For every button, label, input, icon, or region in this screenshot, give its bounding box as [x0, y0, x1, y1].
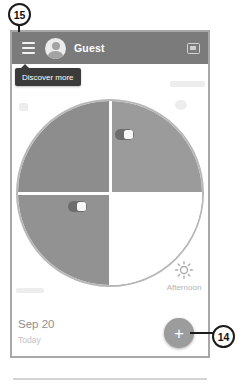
- quadrant-morning[interactable]: [18, 101, 109, 192]
- callout-15-number: 15: [14, 9, 26, 21]
- toggle-bottom-left[interactable]: [68, 201, 87, 212]
- toggle-knob: [77, 202, 86, 211]
- avatar-shoulders: [48, 51, 63, 59]
- tooltip-text: Discover more: [22, 73, 74, 82]
- user-avatar[interactable]: [45, 38, 66, 59]
- faint-period-label: [170, 81, 205, 87]
- app-header: Guest: [12, 32, 208, 64]
- quadrant-top-right[interactable]: [112, 101, 203, 192]
- wheel-quadrants: [18, 101, 202, 285]
- toggle-knob: [124, 130, 133, 139]
- callout-14-number: 14: [218, 331, 230, 343]
- date-subtext: Today: [18, 335, 41, 345]
- callout-14-leader-line: [190, 332, 213, 334]
- avatar-head: [52, 42, 60, 50]
- page-divider: [13, 378, 207, 380]
- discover-more-tooltip[interactable]: Discover more: [15, 68, 81, 86]
- period-label: Afternoon: [162, 283, 206, 292]
- callout-15-leader-line: [18, 25, 20, 32]
- add-button-plus: +: [174, 325, 184, 342]
- quadrant-bottom-left[interactable]: [18, 195, 109, 286]
- faint-period-icon: [19, 103, 28, 111]
- toggle-top-right[interactable]: [115, 129, 134, 140]
- date-label: Sep 20: [18, 318, 54, 330]
- panel-icon[interactable]: [187, 43, 200, 54]
- callout-15: 15: [8, 3, 31, 26]
- tooltip-arrow: [21, 64, 29, 68]
- selected-period: Afternoon: [162, 260, 206, 292]
- sun-icon: [174, 260, 194, 280]
- user-name-label: Guest: [74, 42, 105, 54]
- app-screen: Guest Discover more: [10, 30, 210, 358]
- faint-period-label: [16, 288, 44, 293]
- callout-14: 14: [212, 325, 235, 348]
- day-schedule-wheel[interactable]: [16, 99, 204, 287]
- faint-period-icon: [175, 100, 187, 110]
- hamburger-menu-icon[interactable]: [22, 42, 35, 54]
- annotated-screenshot: 15 14 Guest Discover more: [0, 0, 238, 385]
